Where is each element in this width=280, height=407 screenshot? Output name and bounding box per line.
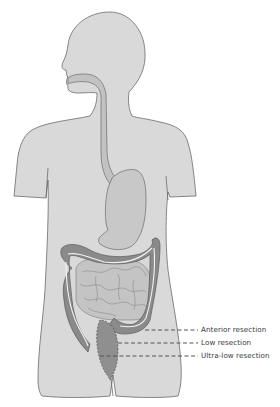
label-low-resection: Low resection: [201, 339, 251, 346]
label-ultra-low-resection: Ultra-low resection: [201, 352, 270, 359]
small-intestine: [76, 257, 150, 320]
label-anterior-resection: Anterior resection: [201, 326, 266, 333]
